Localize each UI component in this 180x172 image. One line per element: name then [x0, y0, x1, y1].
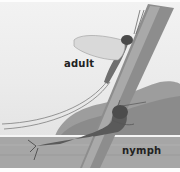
nymph-label: nymph [122, 145, 161, 156]
illustration-frame: adult nymph [0, 0, 180, 172]
adult-label: adult [64, 58, 94, 69]
adult-wing [74, 36, 125, 61]
